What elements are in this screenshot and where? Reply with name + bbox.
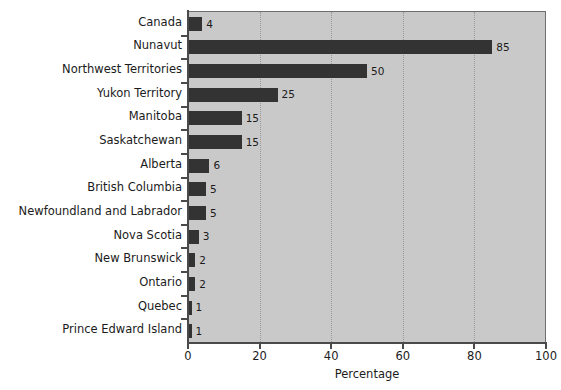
bar-value-label: 15	[246, 113, 259, 124]
x-axis-tick-label: 60	[395, 351, 410, 363]
bar	[188, 253, 195, 267]
bar-value-label: 85	[496, 42, 509, 53]
y-axis-tick	[181, 318, 188, 320]
y-axis-category-labels: CanadaNunavutNorthwest TerritoriesYukon …	[0, 11, 182, 342]
bar-value-label: 4	[206, 19, 213, 30]
y-axis-tick	[181, 224, 188, 226]
bar-row: 2	[188, 272, 546, 296]
x-axis-line	[187, 342, 547, 344]
bar-value-label: 50	[371, 66, 384, 77]
bar-row: 2	[188, 248, 546, 272]
y-axis-tick	[181, 295, 188, 297]
bar	[188, 40, 492, 54]
y-axis-tick	[181, 82, 188, 84]
y-axis-tick	[181, 177, 188, 179]
y-axis-label: Ontario	[0, 277, 182, 289]
x-axis-tick-label: 100	[535, 351, 557, 363]
x-axis-tick-label: 20	[252, 351, 267, 363]
bar-row: 4	[188, 12, 546, 36]
y-axis-label: Prince Edward Island	[0, 324, 182, 336]
y-axis-label: Canada	[0, 17, 182, 29]
x-axis-tick-label: 0	[184, 351, 191, 363]
bar-row: 15	[188, 107, 546, 131]
bar	[188, 88, 278, 102]
bar-value-label: 2	[199, 255, 206, 266]
y-axis-label: Nova Scotia	[0, 230, 182, 242]
y-axis-tick	[181, 58, 188, 60]
y-axis-tick	[181, 106, 188, 108]
bar-row: 15	[188, 130, 546, 154]
bar-row: 85	[188, 36, 546, 60]
y-axis-label: British Columbia	[0, 182, 182, 194]
y-axis-label: New Brunswick	[0, 253, 182, 265]
bar-row: 1	[188, 296, 546, 320]
y-axis-tick	[181, 153, 188, 155]
bar	[188, 182, 206, 196]
bar-value-label: 5	[210, 184, 217, 195]
bar-value-label: 25	[282, 89, 295, 100]
bar-value-label: 1	[196, 326, 203, 337]
bar	[188, 277, 195, 291]
bar-value-label: 3	[203, 231, 210, 242]
x-axis-tick-label: 40	[324, 351, 339, 363]
y-axis-tick	[181, 200, 188, 202]
x-axis-tick-label: 80	[467, 351, 482, 363]
bar-row: 3	[188, 225, 546, 249]
bar	[188, 111, 242, 125]
bar-row: 6	[188, 154, 546, 178]
y-axis-label: Yukon Territory	[0, 88, 182, 100]
y-axis-label: Nunavut	[0, 40, 182, 52]
y-axis-label: Manitoba	[0, 111, 182, 123]
plot-area: 4855025151565532211	[188, 11, 546, 342]
y-axis-label: Saskatchewan	[0, 135, 182, 147]
bar	[188, 135, 242, 149]
bar	[188, 230, 199, 244]
bar	[188, 159, 209, 173]
bar	[188, 206, 206, 220]
bar-value-label: 15	[246, 137, 259, 148]
bar-row: 1	[188, 319, 546, 343]
bar-value-label: 6	[213, 160, 220, 171]
y-axis-tick	[181, 35, 188, 37]
y-axis-tick	[181, 271, 188, 273]
bar-row: 5	[188, 201, 546, 225]
bar-row: 25	[188, 83, 546, 107]
y-axis-label: Quebec	[0, 301, 182, 313]
y-axis-label: Newfoundland and Labrador	[0, 206, 182, 218]
bar-row: 50	[188, 59, 546, 83]
bar-value-label: 1	[196, 302, 203, 313]
y-axis-label: Northwest Territories	[0, 64, 182, 76]
x-axis-title: Percentage	[0, 369, 561, 381]
bar	[188, 17, 202, 31]
bar-chart: 4855025151565532211 CanadaNunavutNorthwe…	[0, 0, 561, 390]
y-axis-tick	[181, 129, 188, 131]
bar-row: 5	[188, 178, 546, 202]
y-axis-label: Alberta	[0, 159, 182, 171]
bar-value-label: 5	[210, 208, 217, 219]
x-axis-title-label: Percentage	[335, 369, 400, 381]
bar-value-label: 2	[199, 279, 206, 290]
y-axis-tick	[181, 247, 188, 249]
bar	[188, 64, 367, 78]
